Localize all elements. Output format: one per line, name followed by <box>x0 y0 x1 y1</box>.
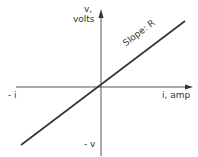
current-axis-label: i, amp <box>162 90 190 100</box>
voltage-axis-symbol: v, <box>84 4 92 14</box>
horizontal-axis-arrow-icon <box>185 85 193 90</box>
negative-current-label: - i <box>8 90 17 100</box>
vertical-axis-arrow-icon <box>99 9 104 18</box>
negative-voltage-label: - v <box>84 139 95 149</box>
voltage-axis-unit: volts <box>73 14 95 24</box>
characteristic-line <box>21 21 185 145</box>
vi-characteristic-diagram <box>0 0 198 157</box>
